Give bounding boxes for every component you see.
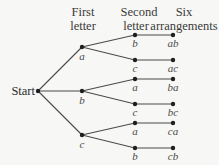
label-first-a: a [79,50,85,62]
tree-diagram: First letter Second letter Six arrangeme… [0,0,219,165]
edge-a-b [82,35,135,47]
header-first-line1: First [72,5,95,19]
label-second-b: b [132,150,138,162]
header-first-line2: letter [70,19,97,33]
edge-start-a [38,47,82,91]
arrangement-ba: ba [168,81,180,93]
header-six-line2: arrangements [150,19,217,33]
arrangement-cb: cb [168,150,179,162]
label-second-c: c [133,106,138,118]
node-c [80,133,84,137]
label-second-a: a [132,125,138,137]
label-first-b: b [79,94,85,106]
edge-c-b [82,135,135,148]
header-second-line2: letter [123,19,150,33]
label-second-c: c [133,62,138,74]
edge-start-c [38,91,82,135]
arrangement-bc: bc [168,106,179,118]
edge-a-c [82,47,135,60]
header-second-line1: Second [121,5,159,19]
label-first-c: c [80,138,85,150]
arrangement-ac: ac [168,62,179,74]
edge-c-a [82,123,135,135]
arrangement-ab: ab [168,37,180,49]
node-a [80,45,84,49]
node-start [36,89,40,93]
label-second-b: b [132,37,138,49]
edge-b-a [82,79,135,91]
start-label: Start [11,84,35,98]
label-second-a: a [132,81,138,93]
edge-b-c [82,91,135,104]
node-b [80,89,84,93]
arrangement-ca: ca [168,125,179,137]
header-six-line1: Six [176,5,193,19]
